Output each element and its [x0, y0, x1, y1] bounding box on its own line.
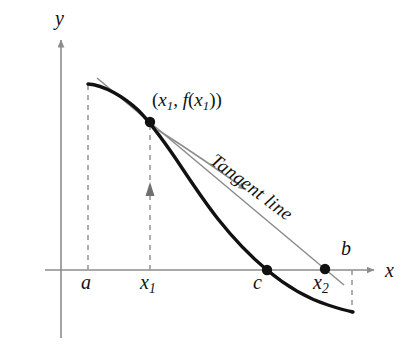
tick-label-b: b	[341, 238, 351, 258]
y-axis-label: y	[55, 8, 64, 28]
point-marker-c	[262, 265, 272, 275]
point-annotation-close-paren: ))	[209, 89, 222, 110]
point-annotation-f-x: x	[194, 89, 202, 110]
x-axis-label: x	[385, 260, 394, 280]
dashed-guide-x1-arrowhead	[146, 182, 155, 196]
tick-label-x2: x2	[313, 272, 329, 295]
tick-label-x2-base: x	[313, 271, 322, 293]
newtons-method-figure: y x a c b x1 x2 (x1, f(x1)) Tangent line	[0, 0, 416, 354]
tick-label-a: a	[81, 272, 91, 292]
point-annotation-comma: ,	[173, 89, 183, 110]
point-marker-x1	[145, 117, 155, 127]
tick-label-x2-subscript: 2	[322, 281, 329, 296]
tick-label-x1: x1	[140, 272, 156, 295]
figure-canvas	[0, 0, 416, 354]
point-annotation-label: (x1, f(x1))	[152, 90, 222, 113]
tick-label-c: c	[253, 272, 262, 292]
tick-label-x1-subscript: 1	[149, 281, 156, 296]
point-annotation-x: x	[158, 89, 166, 110]
tick-label-x1-base: x	[140, 271, 149, 293]
